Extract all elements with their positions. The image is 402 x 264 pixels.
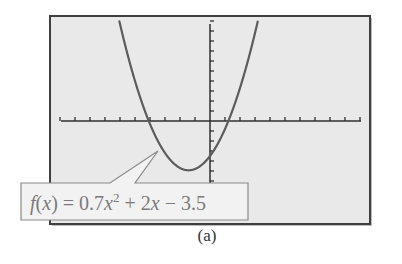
graphing-calculator-screen: f(x) = 0.7x2 + 2x − 3.5 bbox=[0, 0, 402, 264]
label-minus-const: − 3.5 bbox=[160, 192, 206, 214]
figure-caption: (a) bbox=[0, 226, 402, 246]
label-x: x bbox=[41, 192, 51, 214]
label-x3: x bbox=[150, 192, 160, 214]
label-eq: ) = 0.7 bbox=[51, 192, 104, 215]
label-x2: x bbox=[103, 192, 113, 214]
figure: f(x) = 0.7x2 + 2x − 3.5 (a) bbox=[0, 0, 402, 264]
label-plus-2: + 2 bbox=[119, 192, 150, 214]
